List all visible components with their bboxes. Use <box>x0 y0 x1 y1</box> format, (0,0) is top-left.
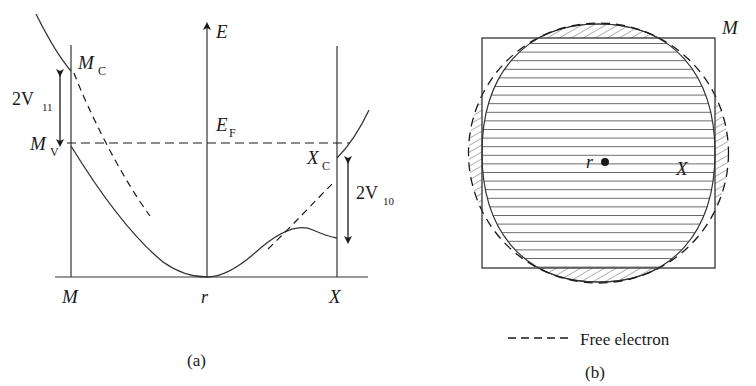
center-point-marker <box>601 158 609 166</box>
mv-label-group: M V <box>29 133 59 159</box>
free-electron-right-dashed <box>268 183 333 249</box>
tick-label-x: X <box>328 286 342 307</box>
gap-right-label-group: 2V 10 <box>356 183 395 207</box>
fermi-level-label-sub: F <box>229 126 236 140</box>
tick-label-r: r <box>201 287 209 307</box>
panel-b-edge-x-label: X <box>675 158 689 179</box>
gap-left-label-group: 2V 11 <box>12 89 53 113</box>
free-electron-left-dashed <box>74 73 150 216</box>
fermi-level-label: E <box>215 114 228 135</box>
mc-label: M <box>77 52 95 73</box>
fermi-surface-body <box>482 24 715 282</box>
panel-b-corner-m-label: M <box>721 17 739 38</box>
energy-axis-label: E <box>215 21 228 42</box>
conduction-band-right-arc <box>337 110 369 158</box>
xc-label-sub: C <box>322 159 330 173</box>
xc-label-group: X C <box>306 147 330 173</box>
valence-band-curve <box>71 146 337 277</box>
panel-a-caption: (a) <box>187 351 206 370</box>
mc-label-group: M C <box>77 52 106 78</box>
legend-free-electron-label: Free electron <box>580 330 670 349</box>
gap-right-label-sub: 10 <box>383 195 395 207</box>
fermi-surface-fill <box>482 24 715 282</box>
gap-left-label: 2V <box>12 89 34 109</box>
mv-label-sub: V <box>50 145 59 159</box>
panel-b-caption: (b) <box>585 363 605 382</box>
fermi-level-label-group: E F <box>215 114 236 140</box>
panel-a: E E F M C M V X C 2V 11 2V 10 M r X (a) <box>12 14 395 370</box>
conduction-band-left-arc <box>36 14 71 71</box>
tick-label-m: M <box>61 286 79 307</box>
figure-svg: E E F M C M V X C 2V 11 2V 10 M r X (a) <box>0 0 756 386</box>
xc-label: X <box>306 147 320 168</box>
gap-left-label-sub: 11 <box>42 101 53 113</box>
mc-label-sub: C <box>98 64 106 78</box>
mv-label: M <box>29 133 47 154</box>
gap-right-label: 2V <box>356 183 378 203</box>
panel-b-center-r-label: r <box>586 152 594 172</box>
figure-container: E E F M C M V X C 2V 11 2V 10 M r X (a) <box>0 0 756 386</box>
panel-b: M X r Free electron (b) <box>469 17 740 382</box>
